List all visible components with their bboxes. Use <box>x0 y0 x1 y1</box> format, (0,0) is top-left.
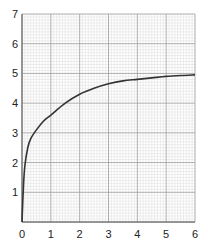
x-axis-tick-labels: 0123456 <box>19 228 198 240</box>
x-tick-label: 4 <box>134 228 140 240</box>
y-tick-label: 1 <box>12 186 18 198</box>
x-tick-label: 1 <box>48 228 54 240</box>
x-tick-label: 2 <box>77 228 83 240</box>
y-tick-label: 7 <box>12 8 18 20</box>
x-tick-label: 3 <box>105 228 111 240</box>
y-axis-tick-labels: 1234567 <box>12 8 18 198</box>
y-tick-label: 2 <box>12 157 18 169</box>
y-tick-label: 5 <box>12 67 18 79</box>
y-tick-label: 6 <box>12 38 18 50</box>
x-tick-label: 6 <box>192 228 198 240</box>
y-tick-label: 3 <box>12 127 18 139</box>
x-tick-label: 0 <box>19 228 25 240</box>
x-tick-label: 5 <box>163 228 169 240</box>
y-tick-label: 4 <box>12 97 18 109</box>
line-chart: 0123456 1234567 <box>0 0 208 250</box>
